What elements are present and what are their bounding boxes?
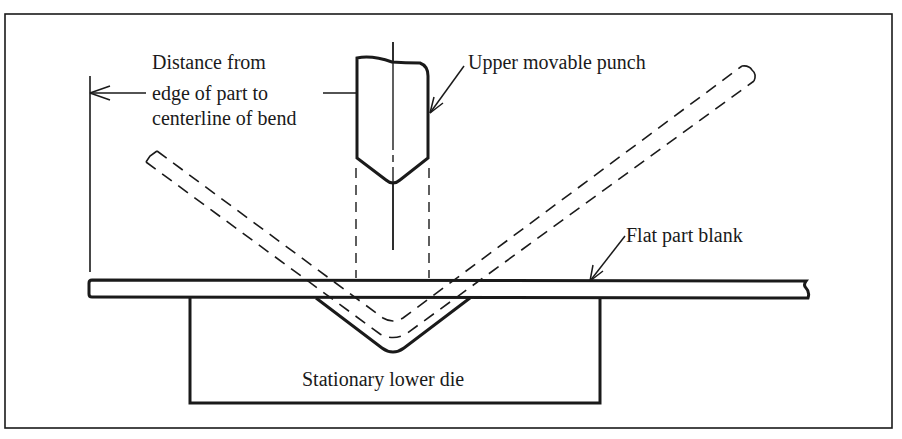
distance-label-line3: centerline of bend bbox=[152, 107, 296, 129]
blank-leader bbox=[590, 236, 625, 281]
dimension-line bbox=[90, 76, 392, 272]
bent-part-end-left bbox=[146, 151, 157, 162]
distance-label-line2: edge of part to bbox=[152, 82, 268, 104]
figure-frame bbox=[5, 14, 892, 428]
punch-leader bbox=[430, 66, 464, 113]
blank-label: Flat part blank bbox=[626, 224, 743, 246]
die-label: Stationary lower die bbox=[302, 368, 464, 390]
die-v-groove bbox=[316, 298, 470, 352]
punch-label: Upper movable punch bbox=[468, 51, 646, 73]
flat-part-blank bbox=[89, 280, 809, 298]
distance-label-line1: Distance from bbox=[152, 51, 266, 73]
bent-part-end-right bbox=[742, 66, 755, 81]
